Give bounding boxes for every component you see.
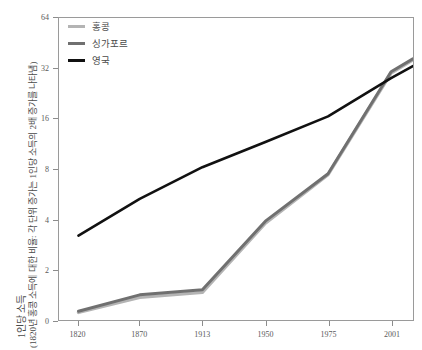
x-tick-mark — [202, 321, 203, 326]
legend-label: 영국 — [92, 53, 110, 67]
legend-swatch-line-icon — [68, 42, 85, 45]
legend-item[interactable]: 싱가포르 — [68, 37, 128, 49]
y-tick-label: 16 — [29, 114, 49, 123]
x-tick-mark — [78, 321, 79, 326]
x-tick-label: 1913 — [194, 330, 210, 339]
y-tick-label: 0 — [29, 317, 49, 326]
legend-label: 홍콩 — [92, 19, 110, 33]
y-tick-label: 2 — [29, 266, 49, 275]
y-axis-title-group: 1인당 소득 (1820년 홍콩 소득에 대한 비율: 각 단위 증가는 1인당… — [0, 0, 34, 350]
y-tick-label: 64 — [29, 13, 49, 22]
x-tick-mark — [266, 321, 267, 326]
legend-item[interactable]: 홍콩 — [68, 20, 128, 32]
y-tick-mark — [53, 321, 58, 322]
series-line-2 — [78, 66, 412, 235]
legend-swatch-line-icon — [68, 25, 85, 28]
x-tick-mark — [139, 321, 140, 326]
series-line-0 — [78, 60, 412, 313]
x-tick-mark — [329, 321, 330, 326]
legend-item[interactable]: 영국 — [68, 54, 128, 66]
chart-legend: 홍콩싱가포르영국 — [68, 20, 128, 66]
y-tick-label: 8 — [29, 165, 49, 174]
x-tick-label: 1975 — [321, 330, 337, 339]
y-tick-label: 32 — [29, 63, 49, 72]
legend-label: 싱가포르 — [92, 36, 128, 50]
x-tick-mark — [392, 321, 393, 326]
x-tick-label: 1950 — [258, 330, 274, 339]
y-tick-label: 4 — [29, 215, 49, 224]
legend-swatch-line-icon — [68, 59, 85, 62]
chart-figure: 1인당 소득 (1820년 홍콩 소득에 대한 비율: 각 단위 증가는 1인당… — [0, 0, 422, 350]
x-tick-label: 1820 — [70, 330, 86, 339]
x-tick-label: 2001 — [384, 330, 400, 339]
x-tick-label: 1870 — [131, 330, 147, 339]
y-axis-title-sub: (1820년 홍콩 소득에 대한 비율: 각 단위 증가는 1인당 소득의 2배… — [26, 62, 39, 349]
